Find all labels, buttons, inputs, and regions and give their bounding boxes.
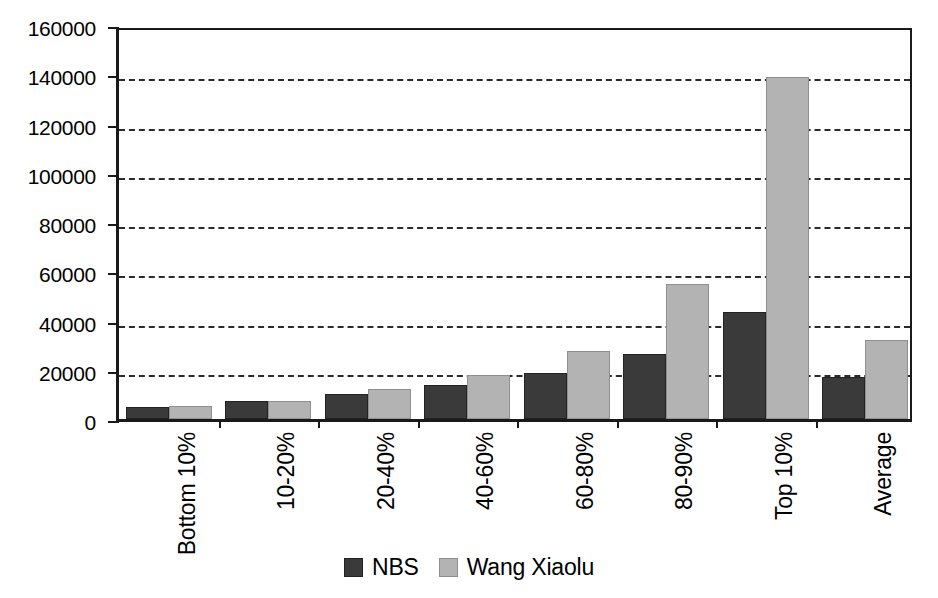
bar-group — [219, 30, 319, 419]
bar — [467, 375, 510, 419]
bar — [666, 284, 709, 419]
x-axis-tick-label: 10-20% — [274, 432, 298, 510]
y-axis-tick-label: 60000 — [39, 264, 96, 285]
bar — [524, 373, 567, 419]
x-axis-tick-label: 80-90% — [672, 432, 696, 510]
y-axis-tick-label: 120000 — [28, 116, 96, 137]
bar — [368, 389, 411, 419]
y-axis-tick-label: 0 — [85, 412, 96, 433]
y-axis-tick-label: 20000 — [39, 362, 96, 383]
bar — [126, 407, 169, 419]
legend-label: NBS — [372, 556, 419, 579]
legend-swatch-icon — [344, 558, 363, 577]
y-axis-tick-label: 40000 — [39, 313, 96, 334]
y-axis-tick-label: 80000 — [39, 215, 96, 236]
bar — [169, 406, 212, 419]
x-axis-tick-mark — [418, 419, 420, 428]
x-axis-tick-label: Top 10% — [772, 432, 796, 520]
y-axis-tick-label: 160000 — [28, 18, 96, 39]
chart-page: 0200004000060000800001000001200001400001… — [0, 0, 938, 598]
y-axis-tick-label: 140000 — [28, 67, 96, 88]
bar — [567, 351, 610, 419]
bar-group — [119, 30, 219, 419]
bar-group — [617, 30, 717, 419]
x-axis-tick-label: 40-60% — [473, 432, 497, 510]
bar — [225, 401, 268, 419]
x-axis-tick-mark — [816, 419, 818, 428]
bar — [623, 354, 666, 419]
x-axis-tick-mark — [517, 419, 519, 428]
bar-group — [318, 30, 418, 419]
legend-swatch-icon — [439, 558, 458, 577]
bar-group — [716, 30, 816, 419]
bar — [822, 377, 865, 419]
bar — [723, 312, 766, 419]
x-axis-labels: Bottom 10%10-20%20-40%40-60%60-80%80-90%… — [116, 432, 912, 552]
bar-groups — [119, 30, 910, 419]
legend-label: Wang Xiaolu — [467, 556, 594, 579]
bar — [325, 394, 368, 419]
bar — [766, 77, 809, 419]
bar — [865, 340, 908, 419]
bar-group — [816, 30, 916, 419]
plot-area — [116, 28, 912, 422]
legend-item[interactable]: Wang Xiaolu — [439, 556, 594, 579]
x-axis-tick-label: Average — [871, 432, 895, 516]
x-axis-tick-mark — [219, 419, 221, 428]
y-axis-labels: 0200004000060000800001000001200001400001… — [0, 0, 110, 440]
bar-group — [517, 30, 617, 419]
y-axis-tick-label: 100000 — [28, 165, 96, 186]
x-axis-tick-label: 60-80% — [573, 432, 597, 510]
legend-item[interactable]: NBS — [344, 556, 419, 579]
x-axis-tick-label: Bottom 10% — [175, 432, 199, 555]
bar — [424, 385, 467, 419]
x-axis-tick-mark — [617, 419, 619, 428]
x-axis-tick-mark — [318, 419, 320, 428]
bar — [268, 401, 311, 419]
bar-group — [418, 30, 518, 419]
x-axis-tick-mark — [716, 419, 718, 428]
x-axis-tick-label: 20-40% — [374, 432, 398, 510]
chart-legend: NBSWang Xiaolu — [0, 556, 938, 579]
